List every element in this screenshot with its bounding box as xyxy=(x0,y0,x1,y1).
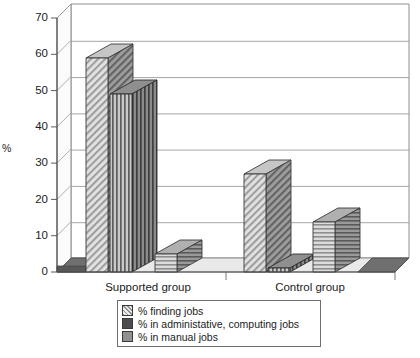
legend-swatch-gray-icon xyxy=(122,331,133,342)
legend-swatch-solid-dark-icon xyxy=(122,318,133,329)
legend: % finding jobs % in administative, compu… xyxy=(117,300,321,347)
legend-swatch-diagonal-hatch-icon xyxy=(122,305,133,316)
y-tick-label-20: 20 xyxy=(22,193,48,205)
y-tick-label-0: 0 xyxy=(22,265,48,277)
y-tick-label-60: 60 xyxy=(22,47,48,59)
y-tick-label-10: 10 xyxy=(22,229,48,241)
bar-control-finding-jobs xyxy=(244,160,291,272)
bar-control-manual-jobs xyxy=(313,208,360,272)
bar-supported-admin-computing-jobs xyxy=(110,80,157,272)
y-tick-label-30: 30 xyxy=(22,156,48,168)
y-tick-label-40: 40 xyxy=(22,120,48,132)
legend-label-finding-jobs: % finding jobs xyxy=(138,305,203,317)
y-axis-ticks xyxy=(51,18,57,272)
category-label-control: Control group xyxy=(250,281,370,293)
legend-label-manual-jobs: % in manual jobs xyxy=(138,331,218,343)
legend-item-admin-computing-jobs: % in administative, computing jobs xyxy=(122,317,316,330)
category-label-supported: Supported group xyxy=(78,281,218,293)
y-tick-label-70: 70 xyxy=(22,11,48,23)
legend-item-manual-jobs: % in manual jobs xyxy=(122,330,316,343)
legend-item-finding-jobs: % finding jobs xyxy=(122,304,316,317)
y-axis-title: % xyxy=(2,142,11,154)
bar-chart: 70 60 50 40 30 20 10 0 % Supported group… xyxy=(0,0,420,358)
category-ticks xyxy=(226,272,395,280)
y-tick-label-50: 50 xyxy=(22,84,48,96)
left-wall xyxy=(57,4,71,272)
legend-label-admin-computing-jobs: % in administative, computing jobs xyxy=(138,318,299,330)
